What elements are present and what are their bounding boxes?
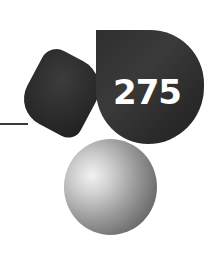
sphere-shape <box>64 139 157 235</box>
page-number-decoration: 275 <box>0 0 223 255</box>
page-number: 275 <box>113 74 185 110</box>
horizontal-rule-line <box>0 123 28 125</box>
